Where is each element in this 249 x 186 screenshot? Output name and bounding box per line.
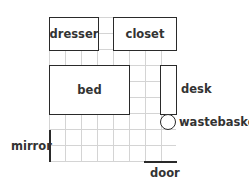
closet: closet <box>113 17 177 51</box>
desk <box>160 65 177 115</box>
mirror-label: mirror <box>11 139 52 153</box>
closet-label: closet <box>126 27 165 41</box>
wastebasket <box>160 114 176 130</box>
bed-label: bed <box>77 83 101 97</box>
door-label: door <box>150 166 180 180</box>
dresser-label: dresser <box>50 27 99 41</box>
wastebasket-label: wastebasket <box>179 115 249 129</box>
dresser: dresser <box>49 17 99 51</box>
door <box>144 161 177 163</box>
bed: bed <box>49 65 130 115</box>
desk-label: desk <box>181 82 212 96</box>
